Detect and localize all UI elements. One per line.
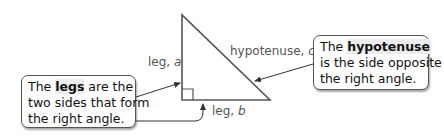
legs-callout-pre: The bbox=[28, 79, 55, 94]
right-angle-marker bbox=[182, 89, 193, 100]
legs-callout-post: are the bbox=[84, 79, 133, 94]
hypotenuse-label: hypotenuse, c bbox=[230, 44, 315, 58]
legs-callout-line-2: two sides that form bbox=[28, 95, 130, 111]
legs-callout-line-3: the right angle. bbox=[28, 111, 130, 127]
hypotenuse-callout-line-3: the right angle. bbox=[320, 71, 423, 87]
leg-a-prefix: leg, bbox=[148, 55, 174, 69]
hypotenuse-callout: The hypotenuse is the side opposite the … bbox=[313, 35, 429, 90]
leg-b-variable: b bbox=[238, 104, 246, 118]
hypotenuse-prefix: hypotenuse, bbox=[230, 44, 308, 58]
hypotenuse-term: hypotenuse bbox=[347, 39, 430, 54]
legs-callout: The legs are the two sides that form the… bbox=[21, 75, 136, 128]
hypotenuse-callout-pre: The bbox=[320, 39, 347, 54]
leg-a-variable: a bbox=[174, 55, 181, 69]
leg-a-label: leg, a bbox=[148, 55, 181, 69]
hypotenuse-callout-line-1: The hypotenuse bbox=[320, 39, 423, 55]
hypotenuse-callout-line-2: is the side opposite bbox=[320, 55, 423, 71]
legs-callout-line-1: The legs are the bbox=[28, 79, 130, 95]
legs-term: legs bbox=[55, 79, 84, 94]
hypotenuse-arrow bbox=[255, 64, 313, 81]
leg-b-label: leg, b bbox=[212, 104, 246, 118]
leg-b-prefix: leg, bbox=[212, 104, 238, 118]
